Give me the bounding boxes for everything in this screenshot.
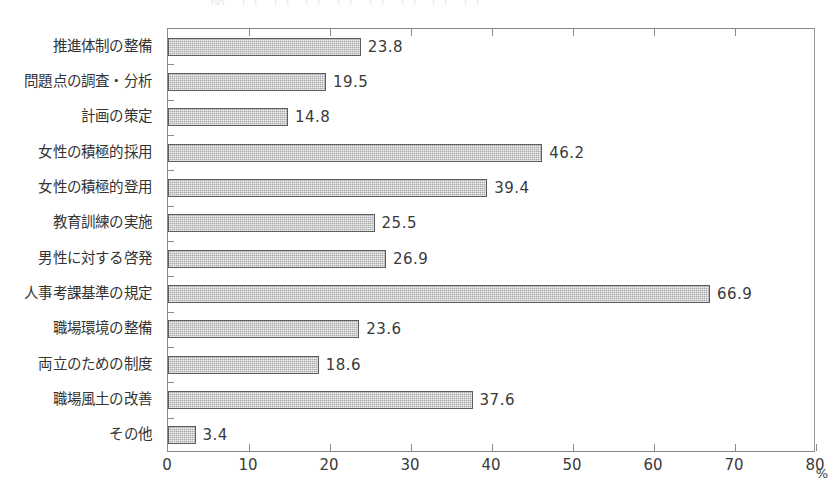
- x-axis-tick-top: [411, 29, 412, 36]
- bar-value-label: 25.5: [382, 214, 417, 232]
- x-axis-tick-bottom: [654, 444, 655, 451]
- cropped-chart-title: 図 〇 〇 〇 〇 〇 〇 〇 〇: [210, 0, 610, 5]
- x-axis-tick-label: 70: [724, 456, 743, 474]
- bar-value-label: 23.8: [368, 38, 403, 56]
- category-label: 両立のための制度: [38, 354, 152, 374]
- bar-value-label: 3.4: [203, 426, 228, 444]
- y-axis-tick: [168, 135, 174, 136]
- y-axis-tick: [168, 347, 174, 348]
- bar: [168, 320, 359, 338]
- x-axis-tick-bottom: [735, 444, 736, 451]
- x-axis-tick-label: 40: [481, 456, 500, 474]
- category-label: その他: [109, 424, 152, 444]
- y-axis-tick: [168, 276, 174, 277]
- bar-value-label: 26.9: [393, 250, 428, 268]
- bar: [168, 38, 361, 56]
- bar: [168, 108, 288, 126]
- bar-value-label: 39.4: [494, 179, 529, 197]
- x-axis-tick-label: 30: [400, 456, 419, 474]
- category-label: 職場風土の改善: [53, 389, 152, 409]
- category-label: 計画の策定: [81, 106, 152, 126]
- x-axis-tick-top: [573, 29, 574, 36]
- x-axis-tick-label: 50: [562, 456, 581, 474]
- bar-value-label: 46.2: [549, 144, 584, 162]
- bar: [168, 356, 319, 374]
- bar-value-label: 14.8: [295, 108, 330, 126]
- category-label: 推進体制の整備: [53, 36, 152, 56]
- y-axis-tick: [168, 312, 174, 313]
- bar: [168, 285, 710, 303]
- x-axis-tick-top: [330, 29, 331, 36]
- bar-chart: 図 〇 〇 〇 〇 〇 〇 〇 〇 推進体制の整備問題点の調査・分析計画の策定女…: [0, 0, 840, 487]
- bar: [168, 214, 375, 232]
- bar: [168, 73, 326, 91]
- bar-value-label: 23.6: [366, 320, 401, 338]
- bar-value-label: 19.5: [333, 73, 368, 91]
- category-label: 男性に対する啓発: [38, 248, 152, 268]
- x-axis-tick-label: 0: [162, 456, 172, 474]
- x-axis-tick-bottom: [816, 444, 817, 451]
- y-axis-tick: [168, 206, 174, 207]
- x-axis-tick-bottom: [573, 444, 574, 451]
- y-axis-tick: [168, 241, 174, 242]
- bar: [168, 144, 542, 162]
- x-axis-tick-bottom: [330, 444, 331, 451]
- y-axis-tick: [168, 170, 174, 171]
- category-label: 教育訓練の実施: [53, 212, 152, 232]
- category-label: 女性の積極的採用: [38, 142, 152, 162]
- y-axis-tick: [168, 64, 174, 65]
- bar: [168, 250, 386, 268]
- x-axis-tick-bottom: [411, 444, 412, 451]
- x-axis-tick-top: [492, 29, 493, 36]
- x-axis-tick-top: [654, 29, 655, 36]
- x-axis-tick-label: 60: [643, 456, 662, 474]
- x-axis-tick-bottom: [249, 444, 250, 451]
- x-axis-tick-top: [249, 29, 250, 36]
- category-label: 人事考課基準の規定: [24, 283, 152, 303]
- y-axis-tick: [168, 382, 174, 383]
- y-axis-tick: [168, 418, 174, 419]
- x-axis-tick-label: 10: [238, 456, 257, 474]
- category-axis-labels: 推進体制の整備問題点の調査・分析計画の策定女性の積極的採用女性の積極的登用教育訓…: [0, 28, 160, 452]
- category-label: 女性の積極的登用: [38, 177, 152, 197]
- x-axis-tick-top: [735, 29, 736, 36]
- plot-area: 23.819.514.846.239.425.526.966.923.618.6…: [167, 28, 815, 452]
- x-axis-tick-bottom: [492, 444, 493, 451]
- bar-value-label: 37.6: [480, 391, 515, 409]
- y-axis-tick: [168, 100, 174, 101]
- bar: [168, 179, 487, 197]
- x-axis-tick-label: 20: [319, 456, 338, 474]
- x-axis-unit-label: %: [816, 466, 828, 481]
- bar-value-label: 18.6: [326, 356, 361, 374]
- bar: [168, 426, 196, 444]
- category-label: 職場環境の整備: [53, 318, 152, 338]
- bar: [168, 391, 473, 409]
- bar-value-label: 66.9: [717, 285, 752, 303]
- category-label: 問題点の調査・分析: [24, 71, 152, 91]
